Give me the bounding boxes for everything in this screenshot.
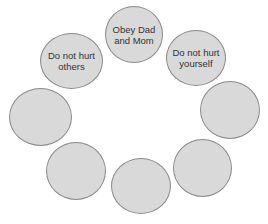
circle-node-empty-left	[9, 88, 72, 146]
rules-circle-diagram: Obey Dad and Mom Do not hurt others Do n…	[0, 0, 268, 224]
circle-node-do-not-hurt-yourself: Do not hurt yourself	[166, 30, 226, 86]
circle-node-empty-bottom	[111, 158, 171, 214]
circle-node-empty-right	[200, 81, 260, 139]
circle-node-empty-lower-left	[46, 142, 106, 200]
circle-label: Do not hurt others	[48, 50, 95, 72]
circle-node-do-not-hurt-others: Do not hurt others	[40, 33, 103, 89]
circle-node-obey-dad-and-mom: Obey Dad and Mom	[105, 6, 163, 63]
circle-label: Do not hurt yourself	[173, 47, 220, 69]
circle-node-empty-lower-right	[173, 139, 232, 197]
circle-label: Obey Dad and Mom	[113, 24, 156, 46]
